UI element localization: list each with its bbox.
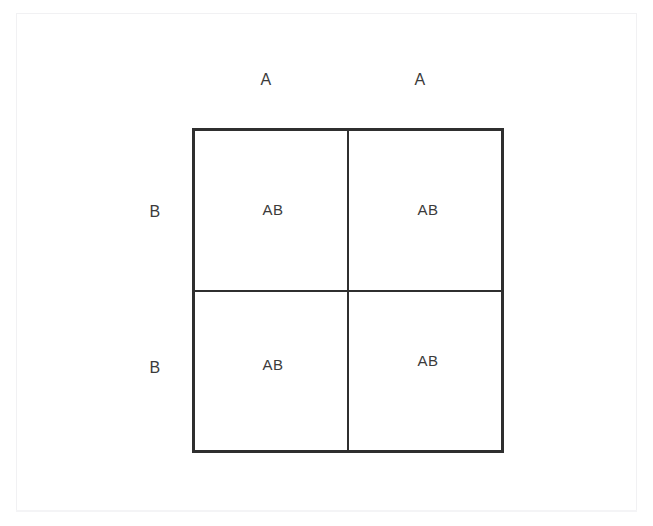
punnett-cell-top-right: AB <box>348 131 501 291</box>
punnett-square-figure: A A B B AB AB AB AB <box>0 0 653 526</box>
column-allele-label-0: A <box>246 70 286 90</box>
genotype-label: AB <box>418 201 439 219</box>
genotype-label: AB <box>418 352 439 370</box>
punnett-grid: AB AB AB AB <box>192 128 504 453</box>
row-allele-label-1: B <box>135 358 175 378</box>
punnett-cell-bottom-left: AB <box>195 291 348 451</box>
column-allele-label-1: A <box>400 70 440 90</box>
punnett-cell-top-left: AB <box>195 131 348 291</box>
row-allele-label-0: B <box>135 202 175 222</box>
punnett-cell-bottom-right: AB <box>348 291 501 451</box>
genotype-label: AB <box>263 201 284 219</box>
genotype-label: AB <box>263 356 284 374</box>
